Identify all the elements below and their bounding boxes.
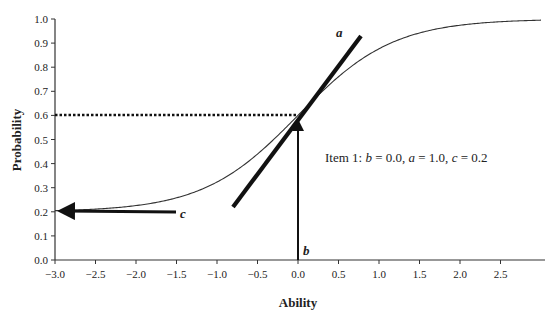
label-a: a bbox=[336, 25, 343, 40]
param-a-value: = 1.0, bbox=[415, 150, 452, 165]
x-tick-label: 1.0 bbox=[372, 268, 386, 280]
item-prefix: Item 1: bbox=[325, 150, 365, 165]
param-c-value: = 0.2 bbox=[457, 150, 487, 165]
x-tick-label: 0.5 bbox=[332, 268, 346, 280]
x-tick-label: −3.0 bbox=[45, 268, 65, 280]
x-tick-label: 2.0 bbox=[453, 268, 467, 280]
y-tick-label: 0.0 bbox=[34, 254, 48, 266]
y-tick-label: 0.4 bbox=[34, 158, 48, 170]
x-tick-label: 2.5 bbox=[494, 268, 508, 280]
y-ticks: 0.00.10.20.30.40.50.60.70.80.91.0 bbox=[34, 13, 55, 266]
y-tick-label: 0.8 bbox=[34, 61, 48, 73]
icc-chart: 0.00.10.20.30.40.50.60.70.80.91.0 −3.0−2… bbox=[0, 0, 559, 326]
x-axis-label: Ability bbox=[279, 295, 318, 310]
x-tick-label: −0.5 bbox=[248, 268, 268, 280]
y-tick-label: 0.5 bbox=[34, 134, 48, 146]
label-b: b bbox=[303, 243, 310, 258]
label-c: c bbox=[180, 206, 186, 221]
y-axis-label: Probability bbox=[9, 108, 24, 171]
item-parameters-annotation: Item 1: b = 0.0, a = 1.0, c = 0.2 bbox=[325, 150, 488, 165]
y-tick-label: 1.0 bbox=[34, 13, 48, 25]
x-tick-label: 0.0 bbox=[291, 268, 305, 280]
x-tick-label: −1.0 bbox=[207, 268, 227, 280]
x-tick-label: −2.0 bbox=[126, 268, 146, 280]
x-tick-label: −2.5 bbox=[86, 268, 106, 280]
param-b-value: = 0.0, bbox=[372, 150, 409, 165]
y-tick-label: 0.2 bbox=[34, 206, 48, 218]
y-tick-label: 0.7 bbox=[34, 85, 48, 97]
x-tick-label: 1.5 bbox=[413, 268, 427, 280]
y-tick-label: 0.6 bbox=[34, 109, 48, 121]
y-tick-label: 0.3 bbox=[34, 182, 48, 194]
y-tick-label: 0.9 bbox=[34, 37, 48, 49]
x-ticks: −3.0−2.5−2.0−1.5−1.0−0.50.00.51.01.52.02… bbox=[45, 260, 508, 280]
x-tick-label: −1.5 bbox=[167, 268, 187, 280]
y-tick-label: 0.1 bbox=[34, 230, 48, 242]
axes: 0.00.10.20.30.40.50.60.70.80.91.0 −3.0−2… bbox=[34, 13, 545, 280]
arrow-c bbox=[66, 211, 176, 212]
